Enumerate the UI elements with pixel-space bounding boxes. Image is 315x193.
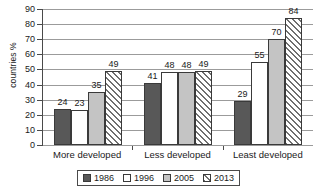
y-axis-tick-label: 40 [25,80,35,90]
bar-value-label: 49 [198,59,208,70]
bar-slot: 55 [251,9,268,145]
legend-label: 2005 [174,173,194,183]
bar-value-label: 23 [74,98,84,109]
y-axis-tick [37,85,42,86]
y-axis-tick [37,115,42,116]
legend-swatch [83,174,91,182]
bar[interactable]: 23 [71,110,88,145]
y-axis-tick-label: 30 [25,95,35,105]
bar[interactable]: 49 [195,71,212,145]
bar[interactable]: 24 [54,109,71,145]
bar-value-label: 55 [254,50,264,61]
bar-group: 29557084 [223,9,313,145]
bar-value-label: 49 [108,59,118,70]
bar[interactable]: 41 [144,83,161,145]
gridline [43,145,313,146]
bar-value-label: 48 [164,60,174,71]
plot-area: 0102030405060708090 24233549414848492955… [42,9,313,146]
bar[interactable]: 70 [268,39,285,145]
legend-label: 2013 [214,173,234,183]
legend-item[interactable]: 2013 [203,173,234,183]
bar-value-label: 41 [147,71,157,82]
bar-slot: 48 [161,9,178,145]
bar[interactable]: 48 [178,72,195,145]
legend-item[interactable]: 2005 [163,173,194,183]
x-axis-category-label: Least developed [223,149,313,160]
bar-chart: countries % 0102030405060708090 24233549… [0,0,315,193]
bar-slot: 84 [285,9,302,145]
legend-label: 1996 [134,173,154,183]
legend-swatch [163,174,171,182]
bar[interactable]: 29 [234,101,251,145]
bar-slot: 70 [268,9,285,145]
bar-group: 24233549 [43,9,133,145]
bar-slot: 24 [54,9,71,145]
y-axis-tick-label: 70 [25,34,35,44]
x-axis-category-label: Less developed [132,149,222,160]
bar-groups: 242335494148484929557084 [43,9,313,145]
x-axis-category-label: More developed [42,149,132,160]
legend-swatch [203,174,211,182]
legend: 1986199620052013 [77,170,240,186]
x-axis-labels: More developedLess developedLeast develo… [42,149,313,160]
bar[interactable]: 35 [88,92,105,145]
y-axis-tick [37,130,42,131]
bar-value-label: 35 [91,80,101,91]
bar[interactable]: 55 [251,62,268,145]
bar[interactable]: 48 [161,72,178,145]
y-axis-title: countries % [8,29,18,101]
bar-slot: 48 [178,9,195,145]
bar-slot: 49 [195,9,212,145]
legend-item[interactable]: 1996 [123,173,154,183]
bar-value-label: 48 [181,60,191,71]
bar-value-label: 24 [57,97,67,108]
legend-item[interactable]: 1986 [83,173,114,183]
y-axis-tick [37,24,42,25]
y-axis-tick [37,39,42,40]
bar-value-label: 29 [237,89,247,100]
bar-slot: 29 [234,9,251,145]
y-axis-tick [37,69,42,70]
bar-slot: 41 [144,9,161,145]
legend-swatch [123,174,131,182]
y-axis-tick [37,9,42,10]
y-axis-tick-label: 90 [25,4,35,14]
y-axis-tick-label: 10 [25,125,35,135]
y-axis-tick-label: 50 [25,64,35,74]
bar[interactable]: 49 [105,71,122,145]
bar-slot: 35 [88,9,105,145]
bar-value-label: 84 [288,6,298,17]
y-axis-tick-label: 80 [25,19,35,29]
bar-group: 41484849 [133,9,223,145]
bar-value-label: 70 [271,27,281,38]
y-axis-tick-label: 0 [30,140,35,150]
y-axis-tick-label: 20 [25,110,35,120]
bar-slot: 23 [71,9,88,145]
legend-label: 1986 [94,173,114,183]
y-axis-tick [37,54,42,55]
bar[interactable]: 84 [285,18,302,145]
bar-slot: 49 [105,9,122,145]
y-axis-tick-label: 60 [25,49,35,59]
y-axis-tick [37,100,42,101]
y-axis-tick [37,145,42,146]
